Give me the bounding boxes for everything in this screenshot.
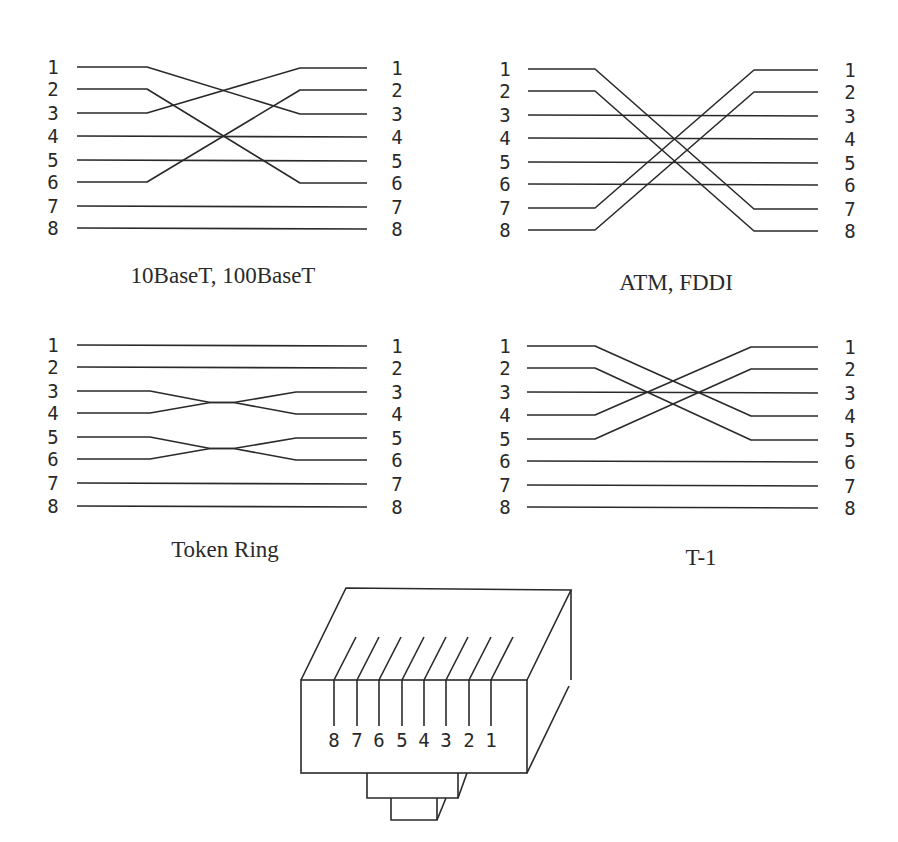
right-pin-label: 2 bbox=[844, 81, 855, 103]
connector-pin-number: 3 bbox=[440, 729, 451, 751]
connector-latch-base-side bbox=[458, 773, 467, 798]
wire-pin-7-to-7 bbox=[77, 206, 367, 207]
right-pin-label: 3 bbox=[391, 381, 402, 403]
right-pin-label: 8 bbox=[844, 497, 855, 519]
right-pin-label: 6 bbox=[844, 451, 855, 473]
right-pin-label: 2 bbox=[391, 357, 402, 379]
right-pin-label: 7 bbox=[391, 473, 402, 495]
right-pin-label: 1 bbox=[844, 336, 855, 358]
connector-pin-number: 4 bbox=[418, 729, 429, 751]
right-pin-label: 7 bbox=[391, 196, 402, 218]
wire-pin-7-to-7 bbox=[77, 483, 367, 484]
wire-pin-7-to-7 bbox=[527, 485, 818, 486]
wire-pin-3-to-3 bbox=[528, 115, 818, 116]
left-pin-label: 5 bbox=[499, 151, 510, 173]
right-pin-label: 4 bbox=[391, 126, 402, 148]
right-pin-label: 6 bbox=[391, 172, 402, 194]
right-pin-label: 2 bbox=[391, 79, 402, 101]
left-pin-label: 2 bbox=[499, 357, 510, 379]
left-pin-label: 7 bbox=[499, 474, 510, 496]
connector-pin-number: 6 bbox=[373, 729, 384, 751]
left-pin-label: 6 bbox=[47, 448, 58, 470]
wire-pin-5-to-5 bbox=[77, 160, 367, 161]
left-pin-label: 8 bbox=[499, 219, 510, 241]
connector-pin-slant bbox=[357, 637, 379, 680]
left-pin-label: 8 bbox=[47, 217, 58, 239]
right-pin-label: 8 bbox=[844, 220, 855, 242]
wire-pin-2-to-2 bbox=[77, 367, 367, 368]
connector-pin-number: 1 bbox=[485, 729, 496, 751]
left-pin-label: 1 bbox=[499, 335, 510, 357]
connector-latch-tip bbox=[391, 798, 437, 820]
right-pin-label: 1 bbox=[391, 335, 402, 357]
connector-pin-number: 8 bbox=[328, 729, 339, 751]
left-pin-label: 3 bbox=[499, 104, 510, 126]
left-pin-label: 6 bbox=[499, 450, 510, 472]
right-pin-label: 1 bbox=[391, 57, 402, 79]
connector-latch-tip-side bbox=[437, 798, 446, 820]
right-pin-label: 3 bbox=[844, 105, 855, 127]
connector-pin-slant bbox=[402, 637, 424, 680]
wire-pin-8-to-8 bbox=[527, 507, 818, 508]
right-pin-label: 5 bbox=[391, 427, 402, 449]
wire-pin-6-to-6 bbox=[527, 461, 818, 462]
left-pin-label: 5 bbox=[47, 149, 58, 171]
wire-pin-6-to-5 bbox=[77, 438, 367, 459]
left-pin-label: 2 bbox=[47, 356, 58, 378]
left-pin-label: 2 bbox=[499, 80, 510, 102]
left-pin-label: 4 bbox=[499, 404, 510, 426]
connector-pin-number: 2 bbox=[463, 729, 474, 751]
connector-pin-slant bbox=[424, 637, 446, 680]
diagram-10baset-100baset: 1122334455667788 bbox=[47, 56, 402, 240]
right-pin-label: 5 bbox=[391, 150, 402, 172]
right-pin-label: 8 bbox=[391, 218, 402, 240]
left-pin-label: 4 bbox=[47, 402, 58, 424]
right-pin-label: 1 bbox=[844, 59, 855, 81]
wiring-diagram-canvas: 1122334455667788 1122334455667788 112233… bbox=[0, 0, 898, 842]
caption-token-ring: Token Ring bbox=[171, 537, 279, 562]
left-pin-label: 7 bbox=[47, 195, 58, 217]
right-pin-label: 3 bbox=[844, 382, 855, 404]
connector-pin-slant bbox=[491, 637, 513, 680]
right-pin-label: 4 bbox=[844, 405, 855, 427]
left-pin-label: 4 bbox=[499, 127, 510, 149]
right-pin-label: 7 bbox=[844, 198, 855, 220]
right-pin-label: 5 bbox=[844, 429, 855, 451]
caption-10baset-100baset: 10BaseT, 100BaseT bbox=[131, 263, 316, 288]
left-pin-label: 6 bbox=[47, 171, 58, 193]
wire-pin-4-to-3 bbox=[77, 392, 367, 413]
connector-pin-slant bbox=[469, 637, 491, 680]
connector-latch-base bbox=[367, 773, 458, 798]
diagram-t1: 1122334455667788 bbox=[499, 335, 855, 519]
diagram-atm-fddi: 1122334455667788 bbox=[499, 58, 855, 242]
left-pin-label: 1 bbox=[47, 56, 58, 78]
left-pin-label: 8 bbox=[47, 495, 58, 517]
connector-front-face bbox=[301, 680, 527, 773]
wire-pin-6-to-6 bbox=[528, 184, 818, 185]
wire-pin-8-to-8 bbox=[77, 228, 367, 229]
left-pin-label: 1 bbox=[47, 334, 58, 356]
right-pin-label: 4 bbox=[391, 403, 402, 425]
left-pin-label: 6 bbox=[499, 173, 510, 195]
right-pin-label: 8 bbox=[391, 496, 402, 518]
connector-pin-slant bbox=[446, 637, 468, 680]
diagram-token-ring: 1122334455667788 bbox=[47, 334, 402, 518]
connector-pin-number: 5 bbox=[396, 729, 407, 751]
caption-atm-fddi: ATM, FDDI bbox=[619, 270, 733, 295]
right-pin-label: 2 bbox=[844, 358, 855, 380]
connector-pin-slant bbox=[334, 637, 356, 680]
rj45-connector-illustration: 87654321 bbox=[301, 588, 571, 820]
left-pin-label: 8 bbox=[499, 496, 510, 518]
left-pin-label: 2 bbox=[47, 78, 58, 100]
right-pin-label: 3 bbox=[391, 103, 402, 125]
right-pin-label: 7 bbox=[844, 475, 855, 497]
right-pin-label: 4 bbox=[844, 128, 855, 150]
left-pin-label: 1 bbox=[499, 58, 510, 80]
left-pin-label: 3 bbox=[47, 102, 58, 124]
left-pin-label: 5 bbox=[499, 428, 510, 450]
right-pin-label: 6 bbox=[391, 449, 402, 471]
connector-pin-slant bbox=[379, 637, 401, 680]
wire-pin-1-to-1 bbox=[77, 345, 367, 346]
left-pin-label: 3 bbox=[47, 380, 58, 402]
wire-pin-5-to-2 bbox=[527, 369, 818, 439]
